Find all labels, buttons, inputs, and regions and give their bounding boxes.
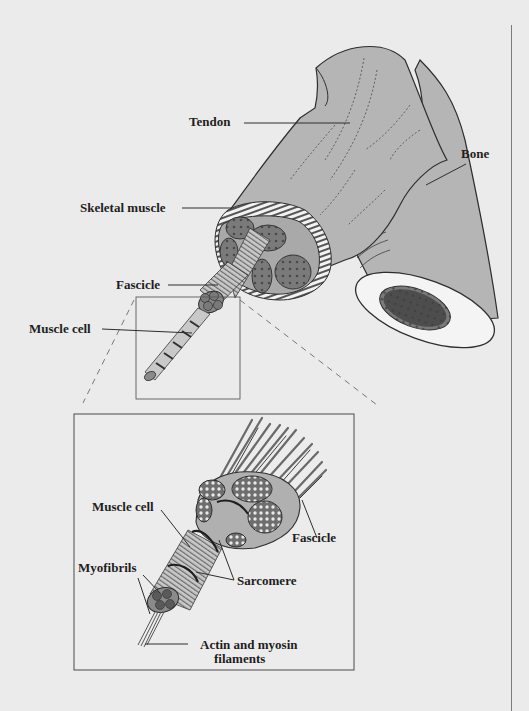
- label-bone: Bone: [461, 146, 489, 161]
- label-sarcomere: Sarcomere: [237, 573, 296, 588]
- label-muscle-cell-inset: Muscle cell: [92, 499, 154, 514]
- muscle-structure-diagram: [0, 0, 529, 711]
- label-fascicle-inset: Fascicle: [292, 530, 336, 545]
- label-fascicle-top: Fascicle: [116, 277, 160, 292]
- label-muscle-cell-top: Muscle cell: [29, 321, 91, 336]
- page-margin-rule: [511, 25, 512, 711]
- muscle-cell-strand: [143, 308, 210, 382]
- zoom-indicator: [83, 297, 377, 405]
- label-actin-myosin-2: filaments: [214, 651, 265, 666]
- label-skeletal-muscle: Skeletal muscle: [80, 200, 166, 215]
- label-myofibrils: Myofibrils: [78, 560, 137, 575]
- label-tendon: Tendon: [189, 114, 230, 129]
- label-actin-myosin-1: Actin and myosin: [200, 637, 298, 652]
